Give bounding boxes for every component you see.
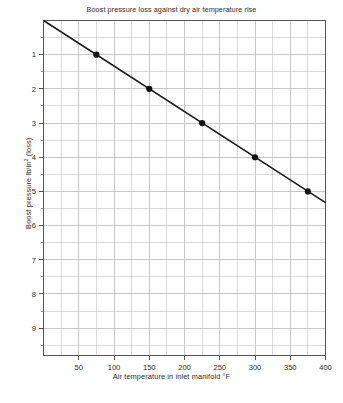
svg-text:50: 50 <box>75 363 83 372</box>
svg-text:250: 250 <box>213 363 226 372</box>
svg-text:100: 100 <box>108 363 121 372</box>
chart-figure: Boost pressure loss against dry air temp… <box>0 0 343 403</box>
svg-text:7: 7 <box>32 256 36 265</box>
svg-text:4: 4 <box>32 153 36 162</box>
axis-tick-labels: 50100150200250300350400123456789 <box>32 50 332 371</box>
svg-text:5: 5 <box>32 187 36 196</box>
svg-text:3: 3 <box>32 119 36 128</box>
major-gridlines <box>44 21 326 356</box>
svg-text:300: 300 <box>249 363 262 372</box>
axis-ticks <box>39 38 326 360</box>
svg-text:400: 400 <box>319 363 332 372</box>
svg-text:150: 150 <box>143 363 156 372</box>
svg-text:6: 6 <box>32 221 36 230</box>
svg-text:350: 350 <box>284 363 297 372</box>
svg-text:8: 8 <box>32 290 36 299</box>
svg-text:2: 2 <box>32 85 36 94</box>
svg-text:1: 1 <box>32 50 36 59</box>
svg-text:9: 9 <box>32 324 36 333</box>
svg-text:200: 200 <box>178 363 191 372</box>
plot-area: 50100150200250300350400123456789 <box>0 0 343 403</box>
